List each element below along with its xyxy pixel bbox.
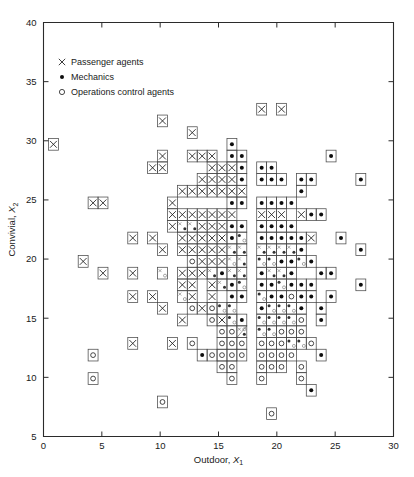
x-tick-label: 25 bbox=[330, 440, 341, 451]
filled-dot-marker bbox=[270, 166, 274, 170]
filled-dot-marker bbox=[230, 142, 234, 146]
filled-dot-marker bbox=[260, 201, 264, 205]
filled-dot-marker bbox=[309, 259, 313, 263]
filled-dot-marker bbox=[243, 333, 246, 336]
filled-dot-marker bbox=[268, 328, 271, 331]
filled-dot-marker bbox=[243, 274, 246, 277]
filled-dot-marker bbox=[243, 251, 246, 254]
filled-dot-marker bbox=[309, 388, 313, 392]
y-tick-label: 10 bbox=[26, 372, 37, 383]
y-tick-label: 20 bbox=[26, 253, 37, 264]
filled-dot-marker bbox=[60, 75, 64, 79]
filled-dot-marker bbox=[260, 283, 264, 287]
filled-dot-marker bbox=[289, 271, 293, 275]
filled-dot-marker bbox=[299, 177, 303, 181]
filled-dot-marker bbox=[228, 304, 231, 307]
filled-dot-marker bbox=[230, 154, 234, 158]
filled-dot-marker bbox=[240, 201, 244, 205]
x-tick-label: 5 bbox=[99, 440, 104, 451]
filled-dot-marker bbox=[283, 274, 286, 277]
filled-dot-marker bbox=[359, 248, 363, 252]
filled-dot-marker bbox=[287, 304, 290, 307]
filled-dot-marker bbox=[258, 257, 261, 260]
filled-dot-marker bbox=[233, 274, 236, 277]
filled-dot-marker bbox=[309, 295, 313, 299]
filled-dot-marker bbox=[258, 316, 261, 319]
filled-dot-marker bbox=[297, 339, 300, 342]
filled-dot-marker bbox=[183, 227, 186, 230]
filled-dot-marker bbox=[270, 177, 274, 181]
legend-item: Passenger agents bbox=[59, 57, 144, 67]
filled-dot-marker bbox=[297, 257, 300, 260]
filled-dot-marker bbox=[283, 251, 286, 254]
filled-dot-marker bbox=[359, 177, 363, 181]
filled-dot-marker bbox=[289, 236, 293, 240]
filled-dot-marker bbox=[278, 304, 281, 307]
filled-dot-marker bbox=[289, 259, 293, 263]
filled-dot-marker bbox=[260, 271, 264, 275]
filled-dot-marker bbox=[263, 251, 266, 254]
filled-dot-marker bbox=[359, 283, 363, 287]
x-tick-label: 30 bbox=[388, 440, 399, 451]
filled-dot-marker bbox=[238, 281, 241, 284]
filled-dot-marker bbox=[319, 353, 323, 357]
filled-dot-marker bbox=[260, 177, 264, 181]
filled-dot-marker bbox=[240, 166, 244, 170]
scatter-plot-figure: 051015202530 510152025303540 Outdoor, X1… bbox=[0, 0, 414, 477]
filled-dot-marker bbox=[230, 283, 234, 287]
filled-dot-marker bbox=[289, 283, 293, 287]
filled-dot-marker bbox=[280, 236, 284, 240]
legend-item: Operations control agents bbox=[59, 87, 174, 97]
filled-dot-marker bbox=[200, 353, 204, 357]
filled-dot-marker bbox=[260, 224, 264, 228]
filled-dot-marker bbox=[258, 328, 261, 331]
filled-dot-marker bbox=[230, 295, 234, 299]
filled-dot-marker bbox=[309, 283, 313, 287]
filled-dot-marker bbox=[280, 224, 284, 228]
filled-dot-marker bbox=[289, 224, 293, 228]
y-tick-label: 35 bbox=[26, 76, 37, 87]
filled-dot-marker bbox=[299, 306, 303, 310]
filled-dot-marker bbox=[287, 316, 290, 319]
filled-dot-marker bbox=[220, 271, 224, 275]
filled-dot-marker bbox=[240, 318, 244, 322]
filled-dot-marker bbox=[243, 262, 246, 265]
filled-dot-marker bbox=[289, 201, 293, 205]
filled-dot-marker bbox=[228, 316, 231, 319]
x-tick-label: 15 bbox=[213, 440, 224, 451]
filled-dot-marker bbox=[230, 236, 234, 240]
filled-dot-marker bbox=[299, 248, 303, 252]
filled-dot-marker bbox=[260, 166, 264, 170]
filled-dot-marker bbox=[299, 295, 303, 299]
y-tick-label: 5 bbox=[31, 431, 36, 442]
filled-dot-marker bbox=[240, 177, 244, 181]
legend-label: Passenger agents bbox=[71, 57, 144, 67]
filled-dot-marker bbox=[280, 295, 284, 299]
legend-label: Operations control agents bbox=[71, 87, 175, 97]
filled-dot-marker bbox=[270, 201, 274, 205]
filled-dot-marker bbox=[287, 339, 290, 342]
filled-dot-marker bbox=[233, 251, 236, 254]
filled-dot-marker bbox=[319, 213, 323, 217]
filled-dot-marker bbox=[299, 283, 303, 287]
filled-dot-marker bbox=[319, 271, 323, 275]
y-axis-label: Convivial, X2 bbox=[6, 202, 19, 256]
filled-dot-marker bbox=[273, 274, 276, 277]
filled-dot-marker bbox=[339, 236, 343, 240]
filled-dot-marker bbox=[319, 318, 323, 322]
filled-dot-marker bbox=[230, 201, 234, 205]
y-tick-label: 25 bbox=[26, 194, 37, 205]
filled-dot-marker bbox=[292, 251, 295, 254]
filled-dot-marker bbox=[270, 295, 274, 299]
x-axis-label: Outdoor, X1 bbox=[194, 454, 243, 467]
filled-dot-marker bbox=[299, 236, 303, 240]
y-tick-label: 15 bbox=[26, 313, 37, 324]
filled-dot-marker bbox=[270, 283, 274, 287]
filled-dot-marker bbox=[230, 224, 234, 228]
filled-dot-marker bbox=[329, 271, 333, 275]
filled-dot-marker bbox=[270, 236, 274, 240]
x-tick-label: 0 bbox=[41, 440, 46, 451]
filled-dot-marker bbox=[278, 316, 281, 319]
y-tick-label: 30 bbox=[26, 135, 37, 146]
filled-dot-marker bbox=[309, 177, 313, 181]
